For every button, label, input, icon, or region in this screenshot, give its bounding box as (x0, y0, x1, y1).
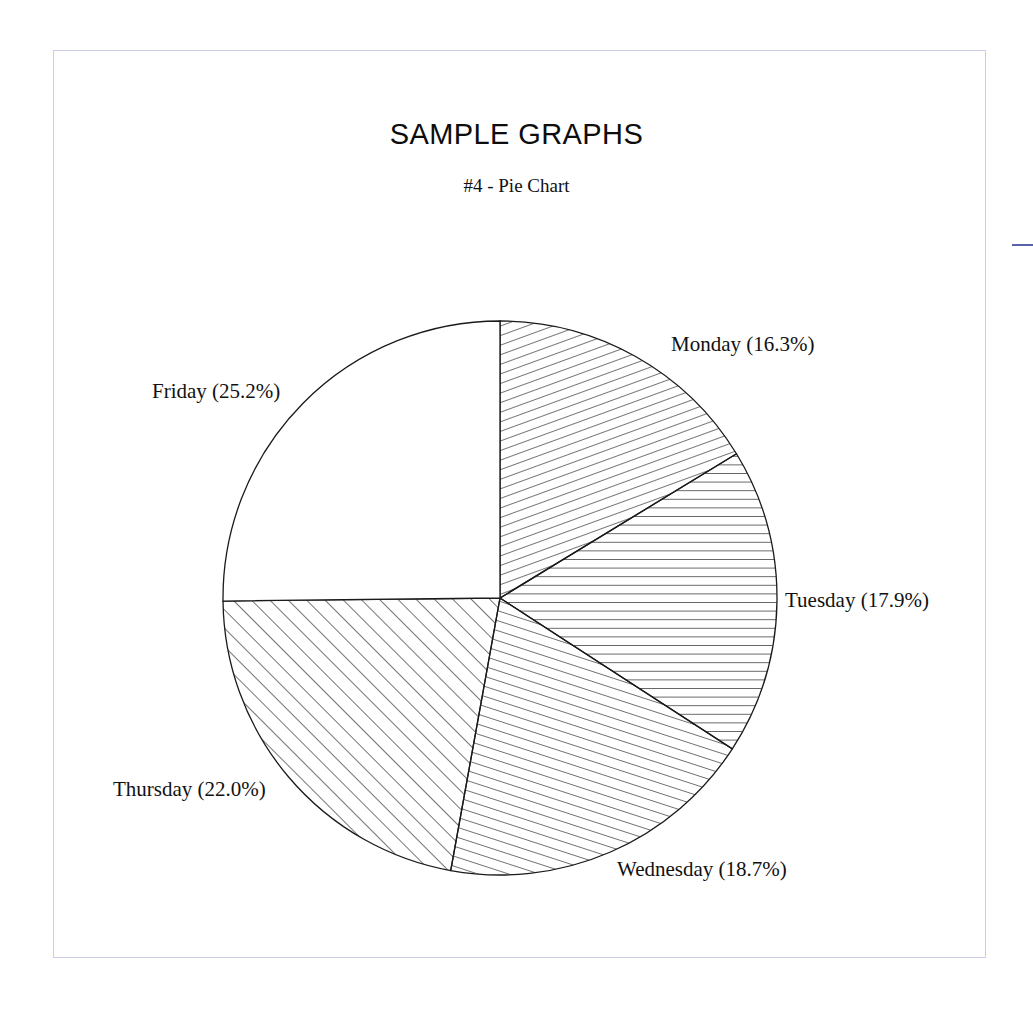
pie-slice-thursday[interactable] (223, 598, 500, 871)
pie-label-friday: Friday (25.2%) (152, 379, 280, 404)
pie-slice-group (223, 321, 777, 875)
pie-label-thursday: Thursday (22.0%) (113, 777, 266, 802)
pie-label-tuesday: Tuesday (17.9%) (785, 588, 929, 613)
pie-slice-friday[interactable] (223, 321, 500, 601)
pie-chart (0, 0, 1033, 1012)
pie-label-wednesday: Wednesday (18.7%) (617, 857, 787, 882)
pie-label-monday: Monday (16.3%) (671, 332, 814, 357)
